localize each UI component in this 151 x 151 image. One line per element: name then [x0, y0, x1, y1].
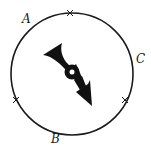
spinner-hub-hole [70, 70, 75, 75]
spinner-diagram: A B C [0, 0, 151, 151]
spinner-pointer-icon [43, 43, 92, 106]
label-b: B [50, 132, 60, 146]
label-a: A [21, 12, 31, 26]
label-c: C [136, 52, 145, 66]
